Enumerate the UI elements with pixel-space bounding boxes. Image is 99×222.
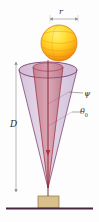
theta-angle-label: θ0	[80, 108, 88, 118]
radius-label: r	[59, 8, 63, 16]
ground-block	[38, 188, 59, 208]
psi-angle-label: ψ	[84, 90, 90, 98]
yellow-sphere	[41, 25, 77, 61]
diagram-canvas: r D ψ θ0	[0, 0, 99, 222]
distance-label: D	[10, 120, 17, 129]
theta-subscript: 0	[85, 112, 88, 118]
radius-dimension-arrow	[50, 15, 78, 22]
